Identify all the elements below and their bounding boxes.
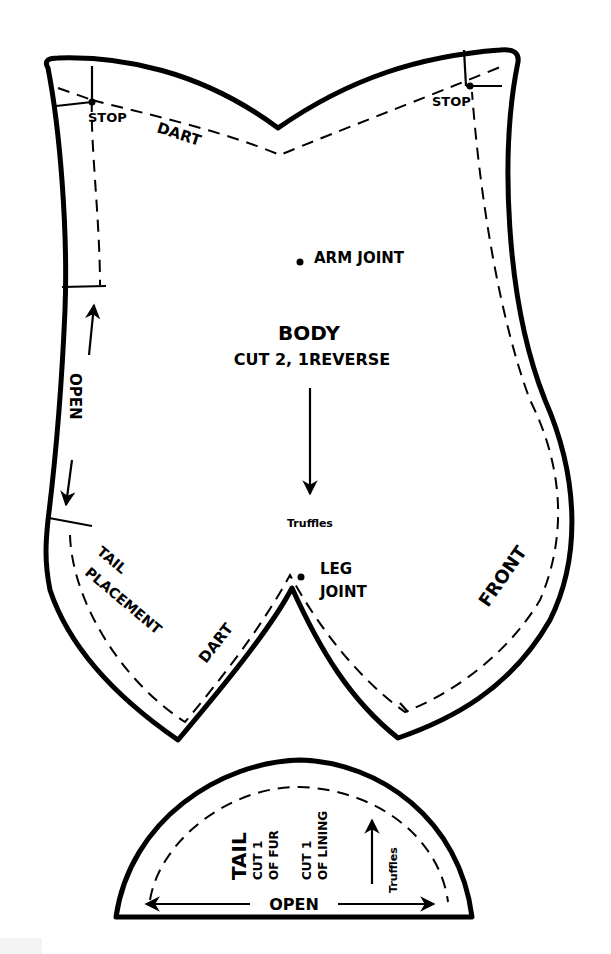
body-cut-instructions: CUT 2, 1REVERSE [234,350,390,369]
arm-joint-dot [297,259,304,266]
stop-label-left: STOP [88,110,127,125]
leg-joint-label-line2: JOINT [319,583,367,601]
stop-label-right: STOP [432,94,471,109]
tail-cut-lining-line1: CUT 1 [300,841,314,880]
tail-pattern-piece: TAIL CUT 1 OF FUR CUT 1 OF LINING Truffl… [116,760,472,917]
pattern-sheet: STOP STOP DART ARM JOINT BODY CUT 2, 1RE… [0,0,611,954]
corner-swatch [0,938,42,954]
tail-cut-fur-line2: OF FUR [267,830,281,880]
body-pattern-piece: STOP STOP DART ARM JOINT BODY CUT 2, 1RE… [46,50,572,740]
tail-cut-lining-line2: OF LINING [316,811,330,880]
open-mark-top [62,286,106,287]
leg-joint-label-line1: LEG [320,560,352,578]
leg-joint-dot [298,574,305,581]
tail-grainline-label: Truffles [387,847,400,893]
tail-title: TAIL [227,832,251,880]
body-grainline-label: Truffles [287,517,333,530]
tail-cut-line [116,760,472,917]
tail-open-label: OPEN [269,895,319,914]
tail-cut-fur-line1: CUT 1 [251,841,265,880]
open-label-side: OPEN [66,373,84,420]
body-title: BODY [278,321,340,345]
arm-joint-label: ARM JOINT [314,249,405,267]
